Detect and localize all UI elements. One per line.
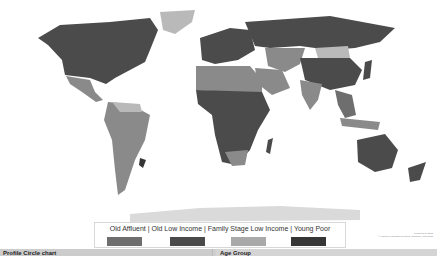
region-greenland bbox=[160, 10, 195, 34]
region-australia bbox=[357, 134, 398, 172]
region-uruguay bbox=[139, 158, 146, 168]
region-india bbox=[300, 80, 322, 110]
region-russia bbox=[245, 16, 395, 50]
region-southeast-asia bbox=[335, 90, 356, 118]
region-south-america bbox=[104, 102, 150, 195]
region-south-africa bbox=[225, 150, 248, 166]
region-antarctica bbox=[130, 206, 360, 222]
legend-swatch-family-stage-low-income bbox=[231, 237, 266, 246]
legend-swatch-old-affluent bbox=[107, 237, 142, 246]
region-europe bbox=[200, 28, 255, 64]
map-legend: Old Affluent | Old Low Income | Family S… bbox=[94, 222, 346, 248]
right-panel-header: Age Group bbox=[216, 249, 437, 256]
region-madagascar bbox=[266, 138, 273, 154]
left-panel-title: Profile Circle chart bbox=[3, 250, 56, 256]
world-map[interactable]: Old Affluent | Old Low Income | Family S… bbox=[0, 0, 437, 248]
attribution-credits: © Navteq, Thomson Reuters, TomTom, Wikip… bbox=[378, 235, 433, 238]
legend-title: Old Affluent | Old Low Income | Family S… bbox=[95, 225, 345, 232]
left-panel-header: Profile Circle chart bbox=[0, 249, 213, 256]
bottom-panels: Profile Circle chart Age Group bbox=[0, 249, 437, 256]
legend-swatch-old-low-income bbox=[170, 237, 205, 246]
map-attribution: Powered by Bing © Navteq, Thomson Reuter… bbox=[378, 232, 433, 238]
map-canvas bbox=[0, 0, 437, 248]
region-new-zealand bbox=[408, 162, 426, 182]
legend-swatch-young-poor bbox=[291, 237, 326, 246]
region-mongolia bbox=[315, 46, 350, 58]
right-panel-title: Age Group bbox=[220, 250, 251, 256]
region-indonesia bbox=[340, 118, 380, 130]
region-north-america bbox=[38, 18, 158, 84]
region-japan bbox=[363, 60, 372, 80]
region-central-asia bbox=[265, 48, 305, 72]
